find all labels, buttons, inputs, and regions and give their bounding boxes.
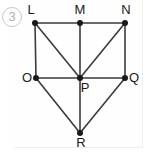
graph-vertex-o: [33, 75, 39, 81]
graph-diagram: LMNOPQR: [0, 0, 150, 160]
graph-vertex-label-q: Q: [129, 70, 139, 85]
graph-vertex-label-m: M: [75, 2, 86, 17]
graph-edge-n-p: [80, 23, 125, 78]
graph-edge-o-r: [36, 78, 80, 133]
graph-edge-l-o: [35, 23, 36, 78]
graph-vertex-n: [122, 20, 128, 26]
graph-vertex-m: [77, 20, 83, 26]
graph-vertex-label-n: N: [121, 2, 130, 17]
graph-edge-l-p: [35, 23, 80, 78]
graph-vertex-l: [32, 20, 38, 26]
graph-vertex-label-p: P: [81, 80, 90, 95]
graph-vertex-label-o: O: [22, 70, 32, 85]
graph-vertex-label-r: R: [76, 135, 85, 150]
graph-vertex-label-l: L: [27, 2, 34, 17]
graph-vertex-q: [122, 75, 128, 81]
